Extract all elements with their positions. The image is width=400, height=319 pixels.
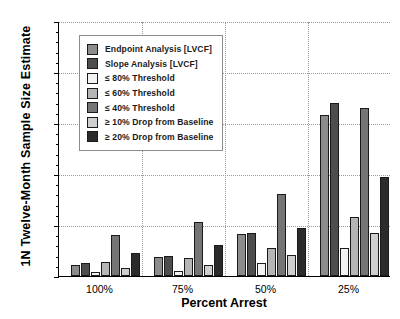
y-tick-mark (54, 22, 59, 23)
bar (81, 263, 90, 276)
legend-label: ≥ 10% Drop from Baseline (105, 117, 213, 127)
legend-swatch-icon (87, 131, 98, 142)
x-tick-label: 25% (338, 283, 359, 295)
legend-label: ≤ 80% Threshold (105, 73, 175, 83)
bar (91, 272, 100, 276)
bar (237, 234, 246, 276)
bar (330, 103, 339, 276)
bar (184, 258, 193, 276)
legend-item: ≤ 80% Threshold (87, 71, 213, 86)
y-minor-tick (56, 185, 59, 186)
bar-group-50pct (237, 22, 307, 276)
legend-label: ≤ 60% Threshold (105, 88, 175, 98)
bar (174, 271, 183, 276)
y-minor-tick (56, 216, 59, 217)
bar (257, 263, 266, 276)
bar (194, 222, 203, 276)
y-minor-tick (56, 195, 59, 196)
bar (370, 233, 379, 276)
y-minor-tick (56, 32, 59, 33)
y-minor-tick (56, 104, 59, 105)
bar (360, 108, 369, 276)
bar (101, 262, 110, 276)
bar (164, 256, 173, 276)
y-minor-tick (56, 165, 59, 166)
legend-swatch-icon (87, 44, 98, 55)
chart-legend: Endpoint Analysis [LVCF]Slope Analysis [… (79, 35, 223, 151)
bar (277, 194, 286, 276)
bar (340, 248, 349, 276)
x-axis-title: Percent Arrest (58, 296, 390, 310)
y-minor-tick (56, 114, 59, 115)
bar (121, 268, 130, 276)
bar (204, 265, 213, 276)
legend-swatch-icon (87, 58, 98, 69)
bar (214, 245, 223, 276)
y-tick-mark (54, 124, 59, 125)
bar-group-25pct (320, 22, 390, 276)
y-minor-tick (56, 63, 59, 64)
bar (267, 248, 276, 276)
legend-swatch-icon (87, 117, 98, 128)
bar-chart: 1N Twelve-Month Sample Size Estimate Per… (0, 0, 400, 319)
y-minor-tick (56, 155, 59, 156)
bar (247, 233, 256, 276)
bar (320, 115, 329, 276)
y-minor-tick (56, 93, 59, 94)
y-minor-tick (56, 144, 59, 145)
y-tick-mark (54, 277, 59, 278)
y-minor-tick (56, 236, 59, 237)
group-separator-gridline (308, 22, 309, 276)
y-minor-tick (56, 53, 59, 54)
x-tick-label: 75% (172, 283, 193, 295)
bar (71, 265, 80, 276)
legend-item: Slope Analysis [LVCF] (87, 57, 213, 72)
legend-label: Slope Analysis [LVCF] (105, 59, 198, 69)
y-tick-mark (54, 73, 59, 74)
y-minor-tick (56, 267, 59, 268)
y-minor-tick (56, 257, 59, 258)
y-minor-tick (56, 206, 59, 207)
legend-swatch-icon (87, 102, 98, 113)
legend-item: ≥ 20% Drop from Baseline (87, 130, 213, 145)
x-tick-label: 100% (86, 283, 113, 295)
legend-item: ≥ 10% Drop from Baseline (87, 115, 213, 130)
y-axis-title: 1N Twelve-Month Sample Size Estimate (19, 16, 33, 276)
y-tick-mark (54, 175, 59, 176)
bar (111, 235, 120, 276)
y-tick-mark (54, 226, 59, 227)
bar (297, 228, 306, 276)
bar (287, 255, 296, 276)
bar (131, 253, 140, 276)
y-minor-tick (56, 134, 59, 135)
legend-item: Endpoint Analysis [LVCF] (87, 42, 213, 57)
y-minor-tick (56, 246, 59, 247)
bar (350, 217, 359, 276)
group-separator-gridline (225, 22, 226, 276)
legend-item: ≤ 60% Threshold (87, 86, 213, 101)
legend-label: ≥ 20% Drop from Baseline (105, 132, 213, 142)
y-minor-tick (56, 42, 59, 43)
x-tick-label: 50% (255, 283, 276, 295)
legend-swatch-icon (87, 88, 98, 99)
y-minor-tick (56, 83, 59, 84)
legend-item: ≤ 40% Threshold (87, 100, 213, 115)
legend-swatch-icon (87, 73, 98, 84)
bar (154, 257, 163, 276)
legend-label: ≤ 40% Threshold (105, 103, 175, 113)
bar (380, 177, 389, 276)
legend-label: Endpoint Analysis [LVCF] (105, 44, 212, 54)
